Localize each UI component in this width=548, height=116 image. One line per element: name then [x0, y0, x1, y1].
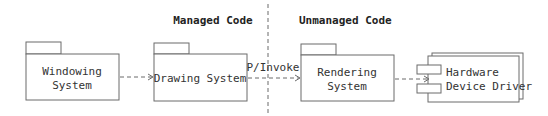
component-label-line2: Device Driver [446, 80, 532, 93]
package-drawing-system[interactable]: Drawing System [154, 43, 247, 101]
package-tab [154, 43, 189, 54]
component-label-line1: Hardware [446, 66, 499, 79]
component-port-icon [417, 84, 441, 93]
package-label-line2: System [52, 79, 92, 92]
package-label-line1: Windowing [42, 65, 102, 78]
managed-code-label: Managed Code [173, 14, 253, 27]
unmanaged-code-label: Unmanaged Code [299, 14, 392, 27]
connector-drawing-to-rendering: P/Invoke [247, 61, 300, 81]
component-hardware-device-driver[interactable]: Hardware Device Driver [417, 53, 532, 102]
package-label-line1: Drawing System [154, 72, 247, 85]
package-tab [26, 42, 61, 54]
architecture-diagram: Managed Code Unmanaged Code Windowing Sy… [0, 0, 548, 116]
package-label-line1: Rendering [317, 66, 377, 79]
connector-rendering-to-driver [395, 76, 429, 82]
package-label-line2: System [327, 80, 367, 93]
connector-windowing-to-drawing [120, 74, 153, 80]
package-windowing-system[interactable]: Windowing System [26, 42, 119, 100]
package-rendering-system[interactable]: Rendering System [301, 44, 394, 101]
package-tab [301, 44, 336, 55]
component-body [428, 56, 519, 102]
p-invoke-label: P/Invoke [247, 61, 300, 74]
component-port-icon [417, 65, 441, 74]
